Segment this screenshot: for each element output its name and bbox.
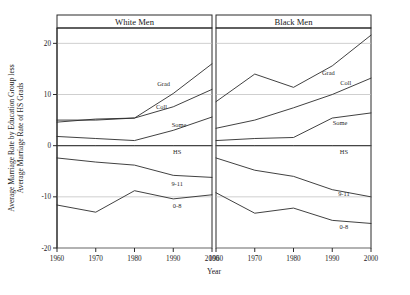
- chart-figure: White Men19601970198019902000Black Men19…: [0, 0, 410, 295]
- xticklabel-white-men-1970: 1970: [89, 255, 104, 263]
- xticklabel-white-men-1960: 1960: [50, 255, 65, 263]
- xticklabel-white-men-1980: 1980: [127, 255, 142, 263]
- series-label-white-men-0-8: 0-8: [173, 202, 182, 209]
- marriage-rate-by-education-chart: White Men19601970198019902000Black Men19…: [0, 0, 410, 295]
- series-label-white-men-Grad: Grad: [157, 80, 171, 87]
- xticklabel-black-men-2000: 2000: [364, 255, 379, 263]
- x-axis-title-text: Year: [207, 267, 221, 276]
- x-axis-title: Year: [207, 267, 221, 276]
- yticklabel--20: -20: [41, 245, 51, 253]
- xticklabel-black-men-1990: 1990: [325, 255, 340, 263]
- series-label-black-men-HS: HS: [340, 148, 349, 155]
- chart-background: [0, 0, 410, 295]
- xticklabel-white-men-1990: 1990: [166, 255, 181, 263]
- xticklabel-black-men-1960: 1960: [209, 255, 224, 263]
- y-axis-title-line2: Average Marriage Rate of HS Grads: [16, 83, 25, 194]
- series-label-white-men-Coll: Coll: [156, 103, 167, 110]
- y-axis-title: Average Marriage Rate by Education Group…: [7, 64, 25, 212]
- series-label-black-men-Coll: Coll: [340, 79, 351, 86]
- panel-title-black-men: Black Men: [275, 17, 314, 27]
- series-label-black-men-9-11: 9-11: [338, 190, 349, 197]
- y-axis-title-line1: Average Marriage Rate by Education Group…: [7, 64, 16, 212]
- yticklabel-0: 0: [47, 142, 51, 150]
- yticklabel-20: 20: [44, 40, 52, 48]
- series-label-black-men-0-8: 0-8: [340, 223, 349, 230]
- yticklabel--10: -10: [41, 193, 51, 201]
- series-label-black-men-Some: Some: [333, 119, 348, 126]
- xticklabel-black-men-1970: 1970: [248, 255, 263, 263]
- series-label-white-men-Some: Some: [172, 121, 187, 128]
- series-label-white-men-HS: HS: [173, 148, 182, 155]
- series-label-black-men-Grad: Grad: [322, 69, 336, 76]
- series-label-white-men-9-11: 9-11: [171, 180, 182, 187]
- yticklabel-10: 10: [44, 91, 52, 99]
- xticklabel-black-men-1980: 1980: [286, 255, 301, 263]
- panel-title-white-men: White Men: [115, 17, 155, 27]
